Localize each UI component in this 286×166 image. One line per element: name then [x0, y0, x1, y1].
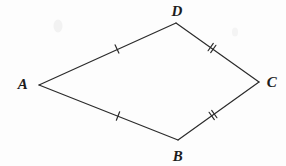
- polygon-side-ad: [39, 23, 176, 85]
- vertex-label-b: B: [173, 149, 183, 164]
- quadrilateral-diagram: [0, 0, 286, 166]
- congruence-ticks-layer: [115, 43, 217, 120]
- polygon-side-ba: [39, 85, 178, 140]
- polygon-sides-layer: [39, 23, 259, 140]
- scan-artifact: [54, 20, 63, 33]
- polygon-side-dc: [176, 23, 259, 82]
- vertex-label-a: A: [18, 77, 28, 92]
- scan-artifact: [232, 28, 238, 37]
- vertex-label-c: C: [267, 75, 277, 90]
- geometry-figure: ADCB: [0, 0, 286, 166]
- scan-artifact-layer: [54, 20, 239, 37]
- polygon-side-cb: [178, 82, 259, 140]
- vertex-label-d: D: [171, 4, 182, 19]
